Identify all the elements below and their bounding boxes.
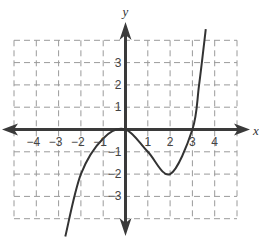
x-tick-label: −2 bbox=[71, 135, 85, 149]
y-tick-label: 1 bbox=[115, 100, 122, 114]
tick-labels: −4−3−2−11234321−1−2−3xy bbox=[26, 4, 259, 203]
x-tick-label: 3 bbox=[189, 135, 196, 149]
y-tick-label: 2 bbox=[115, 78, 122, 92]
y-tick-label: −1 bbox=[108, 145, 122, 159]
x-tick-label: 2 bbox=[167, 135, 174, 149]
x-tick-label: −4 bbox=[26, 135, 40, 149]
graph: −4−3−2−11234321−1−2−3xy bbox=[0, 0, 259, 241]
y-tick-label: −3 bbox=[108, 189, 122, 203]
x-axis-label: x bbox=[252, 123, 259, 138]
x-tick-label: −1 bbox=[93, 135, 107, 149]
x-tick-label: −3 bbox=[49, 135, 63, 149]
x-tick-label: 1 bbox=[144, 135, 151, 149]
function-curve bbox=[65, 29, 205, 236]
y-tick-label: −2 bbox=[108, 167, 122, 181]
curve-path bbox=[65, 29, 205, 236]
y-axis-label: y bbox=[121, 4, 129, 19]
y-tick-label: 3 bbox=[115, 56, 122, 70]
x-tick-label: 4 bbox=[211, 135, 218, 149]
